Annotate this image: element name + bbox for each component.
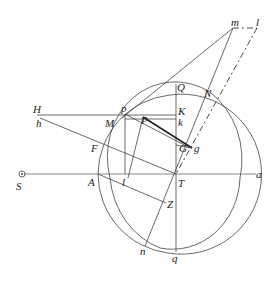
outer-circle-left-arc [98,95,170,174]
label-G: G [179,142,187,154]
label-H: H [32,103,42,115]
sun-marker-center [21,173,23,175]
diagram: S H h p P M F A l T a Q N K k G g Z n q … [0,0,277,282]
line-l-T [176,28,257,174]
label-q: q [172,252,178,264]
label-n: n [140,245,146,257]
label-F: F [90,142,98,154]
label-T: T [178,177,185,189]
label-N: N [203,87,212,99]
label-A: A [87,176,95,188]
label-P: P [140,114,148,126]
label-Q: Q [177,81,185,93]
label-g: g [194,142,200,154]
geometry-figure: S H h p P M F A l T a Q N K k G g Z n q … [0,0,277,282]
label-l-top: l [256,16,259,28]
label-k: k [178,116,184,128]
line-m-n [145,28,233,246]
label-S: S [16,180,22,192]
label-p: p [120,102,127,114]
label-M: M [104,117,115,129]
inner-circle [107,82,242,249]
label-Z: Z [167,198,174,210]
label-h: h [36,117,42,129]
label-l-low: l [122,176,125,188]
line-A-Z [98,174,166,203]
line-P-l [128,117,143,178]
label-m: m [231,16,239,28]
label-a: a [256,168,262,180]
